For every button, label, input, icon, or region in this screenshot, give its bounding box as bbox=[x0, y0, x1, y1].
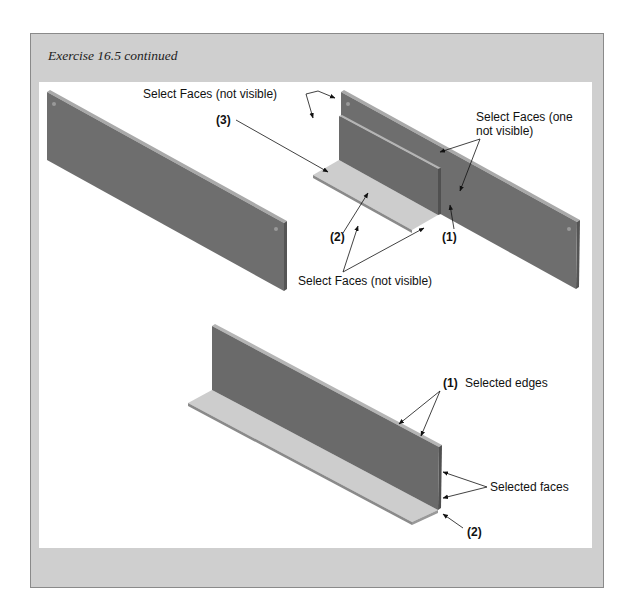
mounting-hole-icon bbox=[274, 227, 278, 231]
label-selected-faces: Selected faces bbox=[490, 480, 569, 494]
label-select-faces-not-visible-bottom: Select Faces (not visible) bbox=[298, 274, 432, 288]
label-select-faces-one-line2: not visible) bbox=[476, 124, 533, 138]
callout-1-bottom: (1) bbox=[443, 376, 458, 390]
mounting-hole-icon bbox=[567, 227, 571, 231]
flat-plate-left bbox=[47, 90, 287, 291]
mounting-hole-icon bbox=[346, 102, 350, 106]
callout-2-bottom: (2) bbox=[467, 525, 482, 539]
label-select-faces-one-line1: Select Faces (one bbox=[476, 110, 573, 124]
callout-1-top: (1) bbox=[442, 230, 457, 244]
figure-drawing: Select Faces (not visible) (3) Select Fa… bbox=[0, 0, 627, 614]
label-select-faces-not-visible-top: Select Faces (not visible) bbox=[143, 87, 277, 101]
mounting-hole-icon bbox=[52, 102, 56, 106]
label-selected-edges: Selected edges bbox=[465, 376, 548, 390]
l-bracket-bottom bbox=[188, 324, 442, 525]
callout-3: (3) bbox=[216, 113, 231, 127]
callout-2-top: (2) bbox=[330, 230, 345, 244]
